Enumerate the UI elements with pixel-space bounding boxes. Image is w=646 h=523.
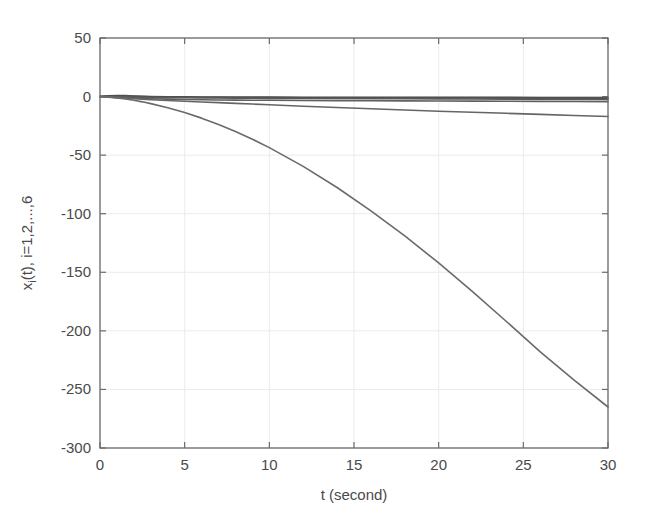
y-tick-label: -150 xyxy=(61,263,91,280)
y-tick-label: -50 xyxy=(69,146,91,163)
y-tick-label: -100 xyxy=(61,205,91,222)
chart-plot: 051015202530500-50-100-150-200-250-300t … xyxy=(0,0,646,523)
figure-canvas: 051015202530500-50-100-150-200-250-300t … xyxy=(0,0,646,523)
x-tick-label: 0 xyxy=(96,456,104,473)
y-tick-label: 50 xyxy=(74,29,91,46)
y-tick-label: -250 xyxy=(61,380,91,397)
y-tick-label: 0 xyxy=(83,88,91,105)
x-axis-title: t (second) xyxy=(321,486,388,503)
x-tick-label: 15 xyxy=(346,456,363,473)
x-tick-label: 5 xyxy=(180,456,188,473)
y-axis-title: xi(t), i=1,2,...,6 xyxy=(18,196,38,291)
x-tick-label: 20 xyxy=(430,456,447,473)
x-tick-label: 10 xyxy=(261,456,278,473)
y-tick-label: -200 xyxy=(61,322,91,339)
y-tick-label: -300 xyxy=(61,439,91,456)
x-tick-label: 30 xyxy=(600,456,617,473)
x-tick-label: 25 xyxy=(515,456,532,473)
